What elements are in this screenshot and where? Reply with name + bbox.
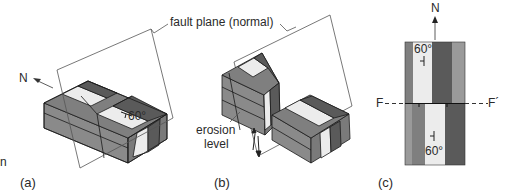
fault-label-right: F´ xyxy=(488,97,499,109)
dip-label-c-top: 60° xyxy=(414,43,432,55)
fault-diagram xyxy=(0,0,515,196)
fault-plane-leader-b xyxy=(280,24,296,31)
panel-label-b: (b) xyxy=(214,176,230,189)
north-label-c: N xyxy=(431,2,440,14)
erosion-level-label-2: level xyxy=(204,138,229,150)
fault-label-left: F xyxy=(376,97,383,109)
dip-label-c-bottom: 60° xyxy=(425,145,443,157)
dip-label-a: 60° xyxy=(128,110,146,122)
panel-c-map xyxy=(385,16,488,165)
panel-b-block-downthrown xyxy=(272,95,350,163)
panel-label-a: (a) xyxy=(20,176,36,189)
north-label-a: N xyxy=(19,72,28,84)
erosion-level-label-1: erosion xyxy=(196,124,235,136)
edge-fragment: n xyxy=(0,156,7,168)
fault-plane-leader-a xyxy=(151,24,168,33)
north-arrow-a xyxy=(33,78,53,88)
panel-label-c: (c) xyxy=(378,176,393,189)
fault-plane-label: fault plane (normal) xyxy=(170,16,273,28)
